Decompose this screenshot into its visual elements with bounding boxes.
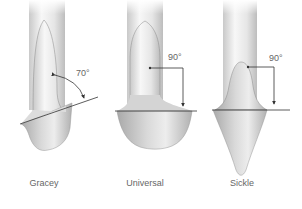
sickle-label: Sickle [202,178,282,188]
universal-blade [117,111,192,149]
sickle-angle-label: 90° [269,53,283,63]
universal-label: Universal [105,178,185,188]
universal-curette [115,0,197,149]
sickle-blade [213,110,267,175]
gracey-angle-label: 70° [76,68,90,78]
universal-angle-label: 90° [168,52,182,62]
sickle-scaler [212,0,290,175]
gracey-label: Gracey [4,178,84,188]
